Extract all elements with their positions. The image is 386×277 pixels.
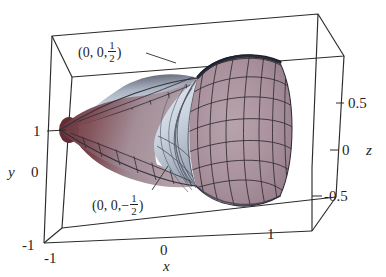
surface-body xyxy=(59,53,294,212)
surface-plot-figure xyxy=(0,0,386,277)
tick-label-x-right: 1 xyxy=(267,227,275,242)
surface-mouth xyxy=(189,56,292,206)
tick-label-y-bottom: -1 xyxy=(22,238,35,253)
box-edge-floor-left xyxy=(44,228,62,243)
annotation-lower-point: (0, 0,−12) xyxy=(92,193,143,217)
box-edge-top-right xyxy=(312,14,318,168)
annotation-upper-point: (0, 0,12) xyxy=(78,40,121,64)
annotation-upper-suffix: ) xyxy=(117,45,122,60)
annotation-upper-numerator: 1 xyxy=(108,40,116,52)
tick-label-y-top: 1 xyxy=(33,124,41,139)
annotation-lower-fraction: 12 xyxy=(130,193,138,217)
axis-label-x: x xyxy=(163,259,170,274)
annotation-upper-denominator: 2 xyxy=(108,52,116,63)
annotation-lower-denominator: 2 xyxy=(130,205,138,216)
box-edge-back-right xyxy=(336,56,344,197)
tick-label-y-mid: 0 xyxy=(31,165,39,180)
box-edge-back-left xyxy=(44,36,52,243)
annotation-lower-prefix: (0, 0, xyxy=(92,198,121,213)
axis-label-y: y xyxy=(8,165,15,180)
tick-label-z-top: 0.5 xyxy=(348,96,367,111)
axis-label-z: z xyxy=(366,143,372,158)
tick-label-x-left: -1 xyxy=(44,251,57,266)
annotation-lower-numerator: 1 xyxy=(130,193,138,205)
annotation-upper-fraction: 12 xyxy=(108,40,116,64)
box-edge-front-left xyxy=(62,77,72,228)
leader-upper-point xyxy=(146,53,176,63)
annotation-lower-sign: − xyxy=(121,198,129,213)
annotation-upper-prefix: (0, 0, xyxy=(78,45,107,60)
annotation-lower-suffix: ) xyxy=(139,198,144,213)
tick-label-x-mid: 0 xyxy=(160,243,168,258)
tick-label-z-bottom: -0.5 xyxy=(324,189,348,204)
tick-label-z-mid: 0 xyxy=(342,143,350,158)
